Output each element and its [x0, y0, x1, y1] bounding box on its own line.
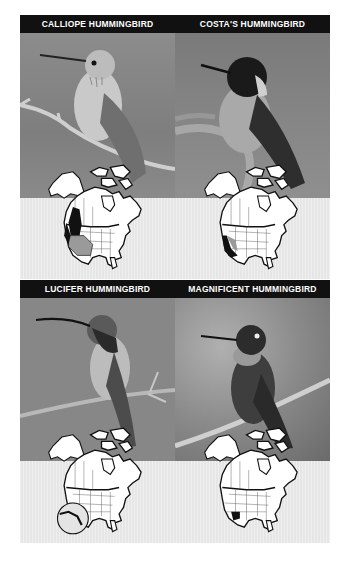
range-map-costas — [202, 163, 302, 273]
range-map-lucifer — [46, 426, 146, 536]
range-map-calliope — [46, 163, 146, 273]
header-bar-bottom: LUCIFER HUMMINGBIRD MAGNIFICENT HUMMINGB… — [20, 280, 330, 298]
species-panel-top: CALLIOPE HUMMINGBIRD COSTA'S HUMMINGBIRD — [20, 15, 330, 279]
species-title-calliope: CALLIOPE HUMMINGBIRD — [20, 15, 175, 33]
range-map-magnificent — [202, 426, 302, 536]
species-title-lucifer: LUCIFER HUMMINGBIRD — [20, 280, 175, 298]
species-title-costas: COSTA'S HUMMINGBIRD — [175, 15, 330, 33]
header-bar-top: CALLIOPE HUMMINGBIRD COSTA'S HUMMINGBIRD — [20, 15, 330, 33]
species-panel-bottom: LUCIFER HUMMINGBIRD MAGNIFICENT HUMMINGB… — [20, 280, 330, 543]
species-title-magnificent: MAGNIFICENT HUMMINGBIRD — [175, 280, 330, 298]
